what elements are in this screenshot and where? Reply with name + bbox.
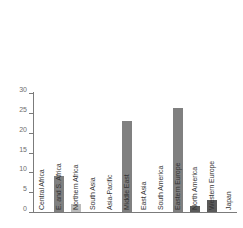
category-label: Japan xyxy=(225,191,232,210)
category-label: Asia-Pacific xyxy=(106,175,113,210)
category-label: Central Africa xyxy=(38,169,45,210)
category-label: East Asia xyxy=(140,182,147,210)
y-tick-label: 5 xyxy=(2,185,27,192)
category-label: E. and S. Africa xyxy=(55,163,62,210)
x-axis-line xyxy=(33,212,237,213)
category-label: Western Europe xyxy=(208,161,215,210)
y-tick-label: 15 xyxy=(2,146,27,153)
y-tick-label: 0 xyxy=(2,205,27,212)
bar-chart: 051015202530 Central AfricaE. and S. Afr… xyxy=(0,0,243,228)
category-label: North America xyxy=(191,167,198,210)
category-label: Northern Africa xyxy=(72,165,79,210)
category-label: Middle East xyxy=(123,175,130,210)
y-tick-label: 20 xyxy=(2,126,27,133)
category-label: South America xyxy=(157,166,164,210)
category-label: South Asia xyxy=(89,178,96,210)
category-label: Eastern Europe xyxy=(174,163,181,210)
y-tick-label: 10 xyxy=(2,165,27,172)
y-tick-mark xyxy=(29,212,33,213)
y-tick-label: 25 xyxy=(2,106,27,113)
plot-area xyxy=(33,93,237,212)
y-tick-label: 30 xyxy=(2,86,27,93)
